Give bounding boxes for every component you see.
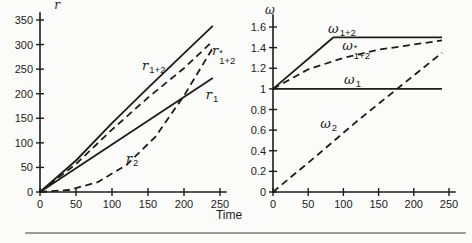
x-tick-label: 0 — [270, 198, 276, 210]
y-tick-label: 1.2 — [251, 62, 266, 74]
y-tick-label: 0.8 — [251, 104, 266, 116]
right-chart-svg: 00.20.40.60.811.21.41.6050100150200250ω — [0, 0, 472, 243]
x-axis-label: Time — [216, 208, 242, 222]
y-tick-label: 0 — [260, 186, 266, 198]
y-tick-label: 1.6 — [251, 21, 266, 33]
y-tick-label: 0.2 — [251, 165, 266, 177]
y-tick-label: 1.4 — [251, 42, 266, 54]
right-chart: 00.20.40.60.811.21.41.6050100150200250ωω… — [0, 0, 472, 243]
x-tick-label: 250 — [440, 198, 458, 210]
right-y-axis-title: ω — [265, 3, 275, 17]
y-tick-label: 0.6 — [251, 124, 266, 136]
series-w2-line — [273, 53, 442, 192]
x-tick-label: 200 — [405, 198, 423, 210]
series-wstar1plus2-line — [273, 40, 442, 89]
y-tick-label: 1 — [260, 83, 266, 95]
x-tick-label: 50 — [302, 198, 314, 210]
y-tick-label: 0.4 — [251, 145, 266, 157]
x-tick-label: 150 — [369, 198, 387, 210]
x-tick-label: 100 — [334, 198, 352, 210]
figure: 050100150200250300350050100150200250rr1+… — [0, 0, 472, 243]
series-w1plus2-line — [273, 37, 442, 89]
bottom-divider — [25, 232, 466, 234]
